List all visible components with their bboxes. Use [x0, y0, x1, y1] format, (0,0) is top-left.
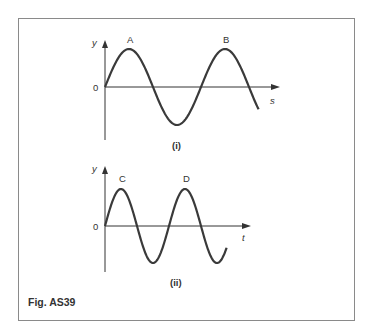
x-axis-label: s: [270, 95, 275, 106]
figure: y 0 s A B (i) y 0 t C D (ii) Fig. AS39: [0, 0, 370, 334]
panel-label: (i): [172, 140, 181, 151]
peak-label-c: C: [119, 173, 126, 184]
figure-caption: Fig. AS39: [28, 296, 76, 308]
panel-label: (ii): [170, 277, 182, 288]
x-axis-label: t: [242, 232, 245, 243]
peak-label-d: D: [183, 173, 190, 184]
figure-frame: [19, 19, 355, 321]
peak-label-b: B: [223, 34, 229, 45]
peak-label-a: A: [127, 34, 134, 45]
origin-label: 0: [93, 82, 98, 93]
origin-label: 0: [93, 221, 98, 232]
